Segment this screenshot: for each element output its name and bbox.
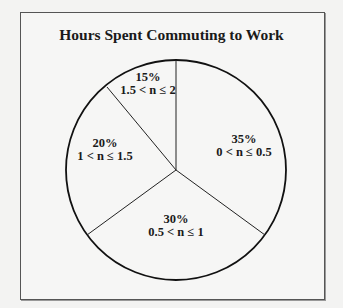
slice-label-1.5-2: 15% 1.5 < n ≤ 2 — [120, 71, 175, 97]
slice-range: 1.5 < n ≤ 2 — [120, 84, 175, 97]
slice-label-0.5-1: 30% 0.5 < n ≤ 1 — [148, 213, 203, 239]
pie-chart — [0, 0, 343, 308]
slice-range: 0.5 < n ≤ 1 — [148, 226, 203, 239]
slice-label-1-1.5: 20% 1 < n ≤ 1.5 — [77, 137, 132, 163]
slice-range: 0 < n ≤ 0.5 — [216, 146, 271, 159]
slice-range: 1 < n ≤ 1.5 — [77, 150, 132, 163]
slice-label-0-0.5: 35% 0 < n ≤ 0.5 — [216, 133, 271, 159]
